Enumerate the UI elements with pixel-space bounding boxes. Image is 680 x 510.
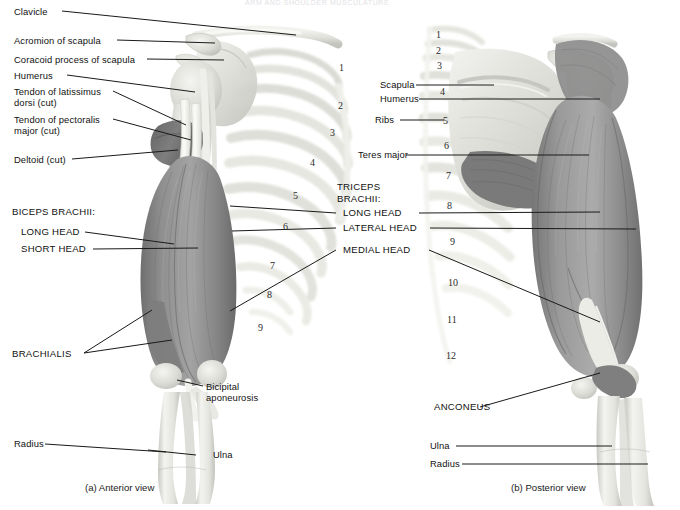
label-radius-posterior: Radius bbox=[430, 458, 460, 469]
leader-latissimus bbox=[113, 91, 186, 125]
label-humerus-posterior: Humerus bbox=[380, 93, 419, 104]
rib-number-posterior-4: 4 bbox=[440, 86, 445, 97]
leader-radius-ant bbox=[45, 444, 166, 452]
label-triceps-long-head: LONG HEAD bbox=[343, 207, 402, 218]
label-latissimus-tendon-line2: dorsi (cut) bbox=[14, 97, 57, 108]
rib-number-anterior-4: 4 bbox=[310, 157, 315, 168]
rib-number-anterior-8: 8 bbox=[267, 289, 272, 300]
rib-number-posterior-6: 6 bbox=[444, 140, 449, 151]
label-anconeus: ANCONEUS bbox=[434, 401, 490, 412]
rib-number-posterior-12: 12 bbox=[446, 350, 456, 361]
label-teres-major: Teres major bbox=[358, 149, 408, 160]
label-pectoralis-tendon-line1: Tendon of pectoralis bbox=[14, 114, 100, 125]
leader-acromion bbox=[117, 40, 215, 43]
leader-triceps-lateral-right bbox=[430, 228, 636, 229]
rib-number-anterior-2: 2 bbox=[338, 100, 343, 111]
rib-number-anterior-6: 6 bbox=[283, 221, 288, 232]
label-ribs: Ribs bbox=[375, 114, 394, 125]
rib-number-anterior-9: 9 bbox=[258, 322, 263, 333]
label-triceps-header-line2: BRACHII: bbox=[337, 193, 381, 204]
leader-lines bbox=[0, 0, 680, 510]
caption-posterior-view: (b) Posterior view bbox=[511, 482, 586, 493]
label-coracoid: Coracoid process of scapula bbox=[14, 54, 135, 65]
leader-triceps-medial-left bbox=[230, 250, 336, 311]
leader-brachialis-2 bbox=[84, 310, 152, 353]
leader-brachialis-1 bbox=[84, 340, 172, 353]
leader-biceps-short bbox=[93, 248, 198, 249]
label-bicipital-aponeurosis-line2: aponeurosis bbox=[206, 392, 258, 403]
label-clavicle: Clavicle bbox=[14, 6, 48, 17]
rib-number-anterior-5: 5 bbox=[293, 190, 298, 201]
rib-number-posterior-10: 10 bbox=[448, 277, 458, 288]
label-brachialis: BRACHIALIS bbox=[12, 348, 72, 359]
rib-number-posterior-7: 7 bbox=[446, 170, 451, 181]
label-ulna-anterior: Ulna bbox=[213, 449, 233, 460]
label-triceps-lateral-head: LATERAL HEAD bbox=[343, 222, 417, 233]
label-pectoralis-tendon-line2: major (cut) bbox=[14, 125, 60, 136]
rib-number-posterior-8: 8 bbox=[447, 200, 452, 211]
leader-ulna-ant bbox=[148, 450, 196, 455]
label-latissimus-tendon-line1: Tendon of latissimus bbox=[14, 86, 101, 97]
caption-anterior-view: (a) Anterior view bbox=[85, 482, 154, 493]
leader-biceps-long bbox=[85, 232, 174, 244]
rib-number-posterior-1: 1 bbox=[436, 29, 441, 40]
rib-number-posterior-5: 5 bbox=[443, 115, 448, 126]
leader-bicipital bbox=[177, 380, 203, 386]
rib-number-posterior-3: 3 bbox=[437, 60, 442, 71]
label-ulna-posterior: Ulna bbox=[430, 440, 450, 451]
label-bicipital-aponeurosis-line1: Bicipital bbox=[206, 381, 239, 392]
rib-number-posterior-9: 9 bbox=[450, 236, 455, 247]
anatomy-figure: ARM AND SHOULDER MUSCULATURE bbox=[0, 0, 680, 510]
leader-triceps-long-left bbox=[230, 206, 336, 213]
rib-number-anterior-1: 1 bbox=[339, 62, 344, 73]
leader-triceps-long-right bbox=[419, 212, 600, 213]
label-triceps-medial-head: MEDIAL HEAD bbox=[343, 244, 410, 255]
label-triceps-header-line1: TRICEPS bbox=[337, 181, 380, 192]
label-scapula-posterior: Scapula bbox=[380, 79, 415, 90]
rib-number-anterior-7: 7 bbox=[270, 260, 275, 271]
label-biceps-short-head: SHORT HEAD bbox=[21, 243, 86, 254]
leader-clavicle bbox=[62, 11, 296, 35]
rib-number-posterior-2: 2 bbox=[436, 45, 441, 56]
label-deltoid-cut: Deltoid (cut) bbox=[14, 154, 66, 165]
rib-number-anterior-3: 3 bbox=[330, 127, 335, 138]
leader-anconeus bbox=[480, 373, 600, 407]
leader-deltoid bbox=[72, 150, 178, 159]
label-biceps-brachii-header: BICEPS BRACHII: bbox=[12, 206, 95, 217]
label-humerus-anterior: Humerus bbox=[14, 70, 53, 81]
label-radius-anterior: Radius bbox=[14, 438, 44, 449]
rib-number-posterior-11: 11 bbox=[447, 314, 457, 325]
label-acromion: Acromion of scapula bbox=[14, 35, 101, 46]
label-biceps-long-head: LONG HEAD bbox=[21, 226, 80, 237]
leader-coracoid bbox=[147, 59, 224, 60]
